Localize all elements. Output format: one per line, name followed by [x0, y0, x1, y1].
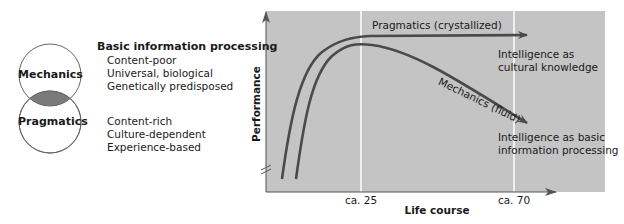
y-axis-title: Performance [250, 66, 262, 142]
venn-label-mechanics: Mechanics [18, 68, 82, 81]
x-tick-70: ca. 70 [498, 194, 530, 206]
pragmatics-annotation: Intelligence as cultural knowledge [498, 48, 598, 74]
diagram-graphics [0, 0, 624, 224]
x-tick-25: ca. 25 [345, 194, 377, 206]
pragmatics-curve-label: Pragmatics (crystallized) [372, 19, 502, 32]
venn-diagram [19, 44, 81, 153]
venn-label-pragmatics: Pragmatics [18, 115, 82, 128]
plot-area [266, 11, 605, 192]
mechanics-item: Content-poor [107, 54, 277, 67]
pragmatics-item: Experience-based [107, 141, 206, 154]
mechanics-heading: Basic information processing [97, 40, 277, 53]
mechanics-annotation: Intelligence as basic information proces… [498, 131, 619, 157]
pragmatics-item: Content-rich [107, 115, 206, 128]
pragmatics-description: Content-rich Culture-dependent Experienc… [107, 115, 206, 154]
x-axis-title: Life course [404, 204, 469, 216]
pragmatics-item: Culture-dependent [107, 128, 206, 141]
